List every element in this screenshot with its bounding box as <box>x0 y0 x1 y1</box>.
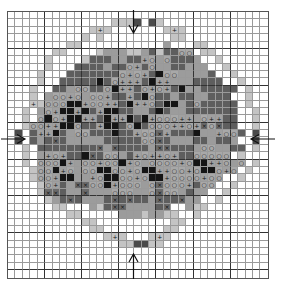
pattern-chart: ++○○+○○○+○○+○+○○○+++++○○○++○+○+○○+○○○++○… <box>7 11 269 279</box>
arrow-left-icon <box>1 135 25 144</box>
arrow-top-icon <box>129 10 138 33</box>
arrow-right-icon <box>251 135 275 144</box>
arrow-bottom-icon <box>129 254 138 279</box>
center-arrows <box>7 11 269 281</box>
